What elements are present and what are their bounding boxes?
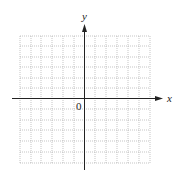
- origin-label: 0: [76, 100, 82, 112]
- x-axis-label: x: [166, 92, 172, 104]
- x-axis-arrow-icon: [155, 96, 163, 101]
- x-axis: [12, 96, 163, 101]
- coordinate-plane: y x 0: [0, 0, 184, 174]
- y-axis-label: y: [81, 10, 87, 22]
- y-axis-arrow-icon: [82, 24, 87, 32]
